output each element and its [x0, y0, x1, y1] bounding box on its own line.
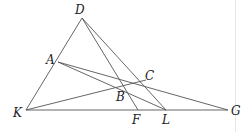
segment-DF	[82, 18, 138, 110]
label-D: D	[74, 3, 85, 17]
label-B: B	[115, 90, 125, 104]
label-G: G	[231, 104, 241, 118]
label-K: K	[12, 106, 23, 120]
label-L: L	[161, 113, 170, 127]
labels: D A K B C F L G	[12, 3, 241, 127]
geometry-diagram: D A K B C F L G	[0, 0, 252, 132]
label-C: C	[145, 69, 154, 83]
segment-KC	[26, 80, 146, 110]
segment-AG	[58, 62, 228, 110]
label-F: F	[131, 113, 141, 127]
label-A: A	[45, 53, 55, 67]
segments	[26, 18, 228, 110]
